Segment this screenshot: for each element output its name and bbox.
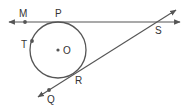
point-r-label: R bbox=[75, 75, 82, 86]
line-QS bbox=[38, 10, 176, 97]
point-t-label: T bbox=[21, 39, 27, 50]
point-t-dot bbox=[30, 39, 34, 43]
point-o-dot bbox=[56, 48, 59, 51]
lines-layer bbox=[9, 10, 180, 97]
geometry-diagram: MPSTORQ bbox=[0, 0, 187, 108]
point-m-dot bbox=[23, 20, 27, 24]
point-p-label: P bbox=[55, 8, 62, 19]
point-q-label: Q bbox=[47, 94, 55, 105]
point-o-label: O bbox=[63, 45, 71, 56]
point-q-dot bbox=[47, 88, 51, 92]
point-s-label: S bbox=[155, 25, 162, 36]
point-m-label: M bbox=[19, 8, 27, 19]
